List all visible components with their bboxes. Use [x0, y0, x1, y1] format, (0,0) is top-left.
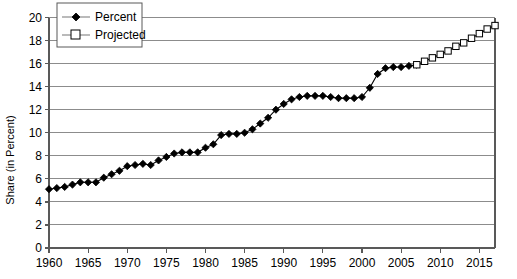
series-line-percent	[49, 65, 417, 189]
data-point-percent	[147, 161, 154, 168]
x-tick-label: 1985	[231, 256, 258, 270]
data-point-percent	[327, 93, 334, 100]
data-point-percent	[69, 181, 76, 188]
y-tick-label: 10	[29, 126, 43, 140]
x-tick-label: 1995	[310, 256, 337, 270]
chart-container: 1960196519701975198019851990199520002005…	[0, 0, 517, 279]
data-point-percent	[311, 92, 318, 99]
x-tick-label: 1975	[153, 256, 180, 270]
x-tick-label: 1980	[192, 256, 219, 270]
data-point-percent	[343, 95, 350, 102]
data-point-percent	[61, 183, 68, 190]
data-point-percent	[163, 153, 170, 160]
x-tick-label: 2000	[349, 256, 376, 270]
y-tick-label: 6	[35, 172, 42, 186]
data-point-percent	[335, 95, 342, 102]
x-axis-tickmarks	[49, 248, 479, 253]
x-tick-label: 1965	[75, 256, 102, 270]
data-point-projected	[453, 43, 459, 49]
data-point-projected	[484, 26, 490, 32]
data-point-percent	[288, 96, 295, 103]
data-point-percent	[77, 179, 84, 186]
data-point-percent	[85, 179, 92, 186]
legend-label-projected: Projected	[95, 28, 146, 42]
data-point-percent	[398, 63, 405, 70]
data-point-percent	[186, 149, 193, 156]
legend-label-percent: Percent	[95, 10, 137, 24]
data-point-projected	[437, 51, 443, 57]
y-tick-label: 2	[35, 218, 42, 232]
y-tick-label: 20	[29, 11, 43, 25]
data-point-percent	[194, 149, 201, 156]
x-axis-tick-labels: 1960196519701975198019851990199520002005…	[36, 256, 493, 270]
x-tick-label: 2015	[466, 256, 493, 270]
data-point-percent	[116, 167, 123, 174]
y-tick-label: 14	[29, 80, 43, 94]
data-point-projected	[429, 55, 435, 61]
data-point-projected	[476, 30, 482, 36]
data-point-percent	[296, 93, 303, 100]
data-point-percent	[351, 95, 358, 102]
data-point-percent	[155, 157, 162, 164]
data-point-projected	[468, 35, 474, 41]
gridlines	[49, 18, 495, 225]
data-point-percent	[53, 184, 60, 191]
data-point-percent	[45, 186, 52, 193]
y-axis-tick-labels: 02468101214161820	[29, 11, 43, 256]
data-point-percent	[390, 63, 397, 70]
x-tick-label: 1970	[114, 256, 141, 270]
data-point-percent	[225, 130, 232, 137]
data-point-percent	[233, 130, 240, 137]
data-point-percent	[92, 179, 99, 186]
x-tick-label: 2005	[388, 256, 415, 270]
y-tick-label: 0	[35, 241, 42, 255]
data-point-projected	[445, 48, 451, 54]
chart-legend: Percent Projected	[57, 3, 146, 47]
data-point-percent	[108, 171, 115, 178]
x-tick-label: 1990	[270, 256, 297, 270]
data-point-projected	[421, 58, 427, 64]
line-chart: 1960196519701975198019851990199520002005…	[0, 0, 517, 279]
y-tick-label: 12	[29, 103, 43, 117]
data-point-percent	[100, 174, 107, 181]
data-series	[45, 22, 498, 192]
data-point-projected	[461, 40, 467, 46]
y-axis-title: Share (in Percent)	[4, 115, 16, 204]
data-point-percent	[304, 92, 311, 99]
y-tick-label: 18	[29, 34, 43, 48]
x-tick-label: 1960	[36, 256, 63, 270]
legend-marker-open-square-icon	[71, 30, 80, 39]
y-tick-label: 8	[35, 149, 42, 163]
data-point-projected	[414, 62, 420, 68]
data-point-percent	[131, 161, 138, 168]
x-tick-label: 2010	[427, 256, 454, 270]
data-point-percent	[139, 160, 146, 167]
data-point-projected	[492, 22, 498, 28]
y-tick-label: 16	[29, 57, 43, 71]
data-point-percent	[241, 129, 248, 136]
data-point-percent	[202, 144, 209, 151]
data-point-percent	[178, 149, 185, 156]
data-point-percent	[124, 163, 131, 170]
y-tick-label: 4	[35, 195, 42, 209]
data-point-percent	[319, 92, 326, 99]
